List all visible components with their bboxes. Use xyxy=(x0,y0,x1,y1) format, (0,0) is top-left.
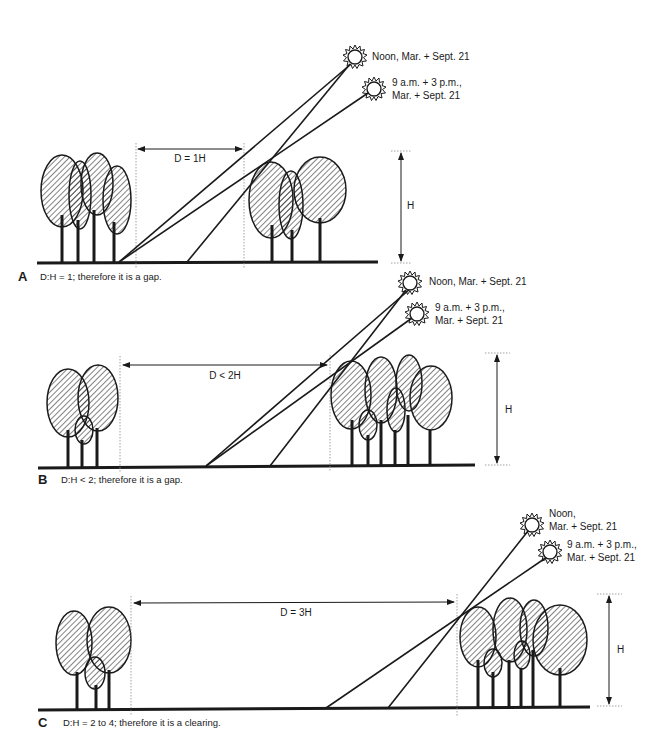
height-label-a: H xyxy=(407,200,414,212)
tree-group-right-b xyxy=(331,355,452,465)
tree-group-right-a xyxy=(249,157,346,262)
panel-letter-c: C xyxy=(38,716,47,730)
caption-c: D:H = 2 to 4; therefore it is a clearing… xyxy=(63,717,221,729)
distance-label-b: D < 2H xyxy=(209,370,240,382)
distance-label-c: D = 3H xyxy=(280,607,311,619)
tree-group-right-c xyxy=(460,598,587,707)
sun-morning-label-c-line2: Mar. + Sept. 21 xyxy=(567,552,635,564)
sun-noon-label-b: Noon, Mar. + Sept. 21 xyxy=(429,276,527,288)
panel-a-drawing xyxy=(37,45,412,268)
sun-noon-label-a: Noon, Mar. + Sept. 21 xyxy=(372,51,470,63)
height-label-c: H xyxy=(617,644,624,656)
panel-letter-b: B xyxy=(38,473,47,487)
ground-line-a xyxy=(37,262,378,263)
sun-noon-icon-b xyxy=(398,271,422,295)
diagram-artwork xyxy=(0,0,665,753)
sun-morning-icon-b xyxy=(405,302,429,326)
sun-morning-label-b-line1: 9 a.m. + 3 p.m., xyxy=(435,302,505,314)
panel-c-drawing xyxy=(38,513,622,716)
sun-morning-icon-a xyxy=(362,77,386,101)
height-label-b: H xyxy=(505,404,512,416)
sun-morning-label-b-line2: Mar. + Sept. 21 xyxy=(435,315,503,327)
sun-noon-label-c-line2: Mar. + Sept. 21 xyxy=(549,521,617,533)
caption-b: D:H < 2; therefore it is a gap. xyxy=(61,474,183,486)
tree-group-left-c xyxy=(56,607,131,709)
ground-line-b xyxy=(38,465,475,468)
sun-morning-label-a-line1: 9 a.m. + 3 p.m., xyxy=(392,77,462,89)
panel-letter-a: A xyxy=(18,270,27,284)
ground-line-c xyxy=(38,707,590,710)
sun-morning-label-a-line2: Mar. + Sept. 21 xyxy=(392,90,460,102)
tree-group-left-b xyxy=(47,365,118,467)
sun-noon-icon-c xyxy=(520,513,544,537)
caption-a: D:H = 1; therefore it is a gap. xyxy=(40,271,162,283)
sun-morning-label-c-line1: 9 a.m. + 3 p.m., xyxy=(567,539,637,551)
sun-noon-icon-a xyxy=(343,45,367,69)
tree-group-left-a xyxy=(41,153,131,262)
distance-label-a: D = 1H xyxy=(174,153,205,165)
sun-noon-label-c-line1: Noon, xyxy=(549,508,576,520)
